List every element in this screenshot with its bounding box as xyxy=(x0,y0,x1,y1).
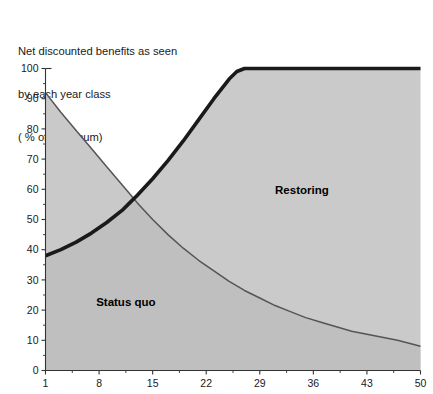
y-tick-label: 30 xyxy=(27,274,39,286)
y-tick-label: 100 xyxy=(21,62,39,74)
x-tick-label: 8 xyxy=(96,377,102,389)
y-tick-label: 10 xyxy=(27,334,39,346)
y-tick-label: 0 xyxy=(33,364,39,376)
x-tick-label: 50 xyxy=(415,377,427,389)
region-label-restoring: Restoring xyxy=(275,184,329,196)
x-tick-label: 43 xyxy=(361,377,373,389)
y-tick-label: 40 xyxy=(27,243,39,255)
y-tick-label: 50 xyxy=(27,213,39,225)
x-tick-label: 29 xyxy=(254,377,266,389)
y-tick-label: 70 xyxy=(27,153,39,165)
region-label-status-quo: Status quo xyxy=(96,296,155,308)
y-tick-label: 80 xyxy=(27,123,39,135)
x-tick-label: 22 xyxy=(200,377,212,389)
chart-svg: 010203040506070809010018152229364350Rest… xyxy=(0,0,433,394)
x-tick-label: 1 xyxy=(43,377,49,389)
y-tick-label: 20 xyxy=(27,304,39,316)
y-tick-label: 60 xyxy=(27,183,39,195)
x-tick-label: 15 xyxy=(147,377,159,389)
y-tick-label: 90 xyxy=(27,92,39,104)
x-tick-label: 36 xyxy=(308,377,320,389)
chart-plot-area: 010203040506070809010018152229364350Rest… xyxy=(0,0,433,394)
